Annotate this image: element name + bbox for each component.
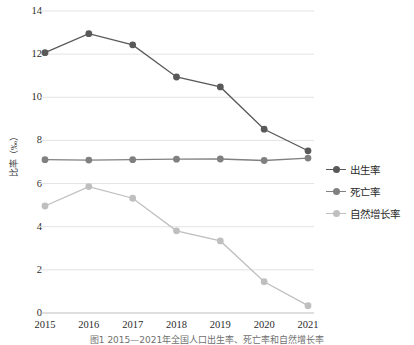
data-point[interactable] xyxy=(305,155,312,162)
x-tick-label: 2020 xyxy=(254,319,275,330)
legend-label: 自然增长率 xyxy=(350,206,400,221)
data-point[interactable] xyxy=(173,227,180,234)
data-point[interactable] xyxy=(305,302,312,309)
legend-label: 出生率 xyxy=(350,162,380,177)
data-point[interactable] xyxy=(42,156,49,163)
x-tick-label: 2015 xyxy=(35,319,56,330)
x-tick-label: 2019 xyxy=(210,319,231,330)
data-point[interactable] xyxy=(173,74,180,81)
legend-item-1[interactable]: 死亡率 xyxy=(326,180,414,202)
data-point[interactable] xyxy=(305,147,312,154)
legend-label: 死亡率 xyxy=(350,184,380,199)
x-tick-label: 2021 xyxy=(298,319,319,330)
data-point[interactable] xyxy=(85,183,92,190)
data-point[interactable] xyxy=(261,126,268,133)
legend-marker-icon xyxy=(326,208,346,218)
figure-caption: 图1 2015—2021年全国人口出生率、死亡率和自然增长率 xyxy=(0,333,414,345)
data-point[interactable] xyxy=(217,156,224,163)
x-tick-label: 2016 xyxy=(78,319,99,330)
data-point[interactable] xyxy=(129,156,136,163)
legend-marker-icon xyxy=(326,164,346,174)
data-point[interactable] xyxy=(261,278,268,285)
legend-item-2[interactable]: 自然增长率 xyxy=(326,202,414,224)
chart-container: 比率（‰） 02468101214 2015201620172018201920… xyxy=(0,0,414,345)
data-point[interactable] xyxy=(129,41,136,48)
data-point[interactable] xyxy=(261,157,268,164)
data-point[interactable] xyxy=(85,157,92,164)
x-tick-label: 2017 xyxy=(122,319,143,330)
legend-item-0[interactable]: 出生率 xyxy=(326,158,414,180)
data-point[interactable] xyxy=(217,84,224,91)
legend-marker-icon xyxy=(326,186,346,196)
data-point[interactable] xyxy=(217,238,224,245)
series-line-2 xyxy=(45,187,308,306)
data-point[interactable] xyxy=(85,30,92,37)
chart-legend[interactable]: 出生率死亡率自然增长率 xyxy=(326,158,414,224)
data-point[interactable] xyxy=(42,49,49,56)
data-point[interactable] xyxy=(42,203,49,210)
data-point[interactable] xyxy=(173,156,180,163)
x-tick-label: 2018 xyxy=(166,319,187,330)
series-line-0 xyxy=(45,34,308,151)
data-point[interactable] xyxy=(129,195,136,202)
